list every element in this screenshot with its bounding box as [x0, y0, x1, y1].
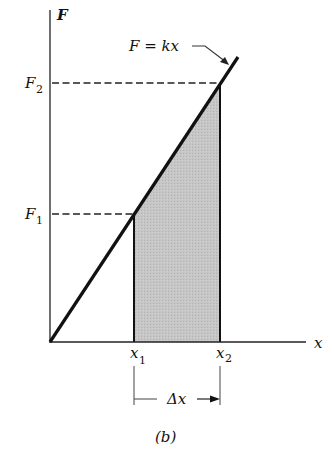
f1-sub: 1	[36, 214, 43, 227]
f2-sub: 2	[36, 83, 43, 96]
delta-x-label: Δx	[166, 390, 187, 408]
x1-sub: 1	[139, 354, 146, 367]
y-axis-label: F	[56, 6, 69, 24]
x2-label: x 2	[216, 344, 232, 365]
line-equation-label: F = kx	[128, 37, 180, 55]
f2-main: F	[24, 74, 36, 92]
dx-arrowhead-icon	[210, 396, 220, 403]
x-axis-label: x	[314, 334, 323, 352]
work-area-shading	[134, 83, 220, 342]
x1-main: x	[130, 344, 139, 362]
x1-label: x 1	[130, 344, 146, 367]
f2-label: F 2	[24, 74, 43, 96]
x2-sub: 2	[225, 352, 232, 365]
leader-arrow-line	[192, 46, 226, 62]
figure-caption: (b)	[155, 428, 176, 446]
x2-main: x	[216, 344, 225, 362]
f1-main: F	[24, 205, 36, 223]
force-displacement-diagram: F x F = kx F 2 F 1 x 1 x 2 Δx (b)	[0, 0, 334, 451]
f1-label: F 1	[24, 205, 43, 227]
